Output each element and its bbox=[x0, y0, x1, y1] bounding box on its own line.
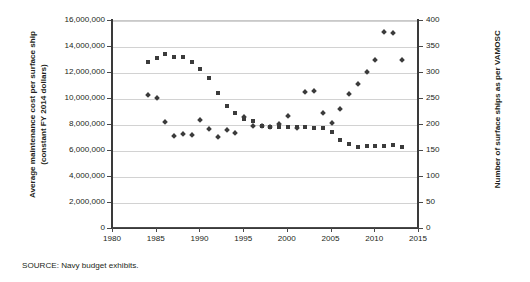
y-axis-left-tick-label: 2,000,000 bbox=[10, 197, 105, 206]
y-axis-right-tick-label: 400 bbox=[426, 15, 466, 24]
data-point bbox=[225, 104, 229, 108]
chart-figure: Average maintenance cost per surface shi… bbox=[0, 0, 530, 282]
data-point bbox=[303, 125, 307, 129]
x-axis-tick bbox=[156, 228, 157, 232]
gridline bbox=[113, 151, 417, 152]
x-axis-tick-label: 2010 bbox=[349, 234, 399, 243]
data-point bbox=[302, 89, 308, 95]
data-point bbox=[146, 60, 150, 64]
data-point bbox=[198, 67, 202, 71]
data-point bbox=[171, 133, 177, 139]
x-axis-tick-label: 2005 bbox=[306, 234, 356, 243]
data-point bbox=[356, 145, 360, 149]
y-axis-left-tick bbox=[107, 150, 111, 151]
x-axis-tick bbox=[287, 228, 288, 232]
x-axis-tick bbox=[374, 228, 375, 232]
gridline bbox=[113, 21, 417, 22]
y-axis-left-tick bbox=[107, 46, 111, 47]
y-axis-left-tick bbox=[107, 124, 111, 125]
y-axis-left-tick bbox=[107, 72, 111, 73]
data-point bbox=[233, 111, 237, 115]
data-point bbox=[180, 131, 186, 137]
y-axis-right-tick-label: 100 bbox=[426, 171, 466, 180]
y-axis-right-tick-label: 50 bbox=[426, 197, 466, 206]
data-point bbox=[232, 131, 238, 137]
source-note: SOURCE: Navy budget exhibits. bbox=[22, 261, 139, 270]
data-point bbox=[372, 57, 378, 63]
gridline bbox=[113, 177, 417, 178]
gridline bbox=[113, 203, 417, 204]
data-point bbox=[373, 144, 377, 148]
y-axis-left-tick bbox=[107, 202, 111, 203]
y-axis-right-title: Number of surface ships as per VAMOSC bbox=[493, 9, 504, 209]
data-point bbox=[224, 127, 230, 133]
data-point bbox=[277, 125, 281, 129]
data-point bbox=[330, 130, 334, 134]
y-axis-right-tick bbox=[419, 98, 423, 99]
y-axis-right-tick-label: 150 bbox=[426, 145, 466, 154]
data-point bbox=[312, 126, 316, 130]
y-axis-right-tick bbox=[419, 202, 423, 203]
data-point bbox=[390, 30, 396, 36]
x-axis-tick-label: 1995 bbox=[218, 234, 268, 243]
data-point bbox=[207, 76, 211, 80]
data-point bbox=[399, 57, 405, 63]
y-axis-left-tick-label: 12,000,000 bbox=[10, 67, 105, 76]
y-axis-right-tick-label: 250 bbox=[426, 93, 466, 102]
y-axis-left-tick bbox=[107, 20, 111, 21]
data-point bbox=[295, 125, 299, 129]
data-point bbox=[337, 106, 343, 112]
y-axis-right-tick-label: 350 bbox=[426, 41, 466, 50]
data-point bbox=[355, 81, 361, 87]
gridline bbox=[113, 73, 417, 74]
data-point bbox=[250, 123, 256, 129]
data-point bbox=[172, 55, 176, 59]
data-point bbox=[198, 118, 204, 124]
data-point bbox=[321, 126, 325, 130]
y-axis-left-tick-label: 14,000,000 bbox=[10, 41, 105, 50]
data-point bbox=[163, 52, 167, 56]
y-axis-left-tick bbox=[107, 176, 111, 177]
data-point bbox=[365, 144, 369, 148]
data-point bbox=[285, 113, 291, 119]
y-axis-right-tick-label: 300 bbox=[426, 67, 466, 76]
data-point bbox=[189, 132, 195, 138]
x-axis-tick-label: 1980 bbox=[87, 234, 137, 243]
data-point bbox=[286, 125, 290, 129]
data-point bbox=[216, 91, 220, 95]
y-axis-right-tick bbox=[419, 20, 423, 21]
data-point bbox=[381, 29, 387, 35]
data-point bbox=[400, 145, 404, 149]
y-axis-left-spine bbox=[111, 19, 113, 229]
x-axis-spine bbox=[111, 228, 418, 230]
y-axis-right-tick bbox=[419, 124, 423, 125]
y-axis-right-tick bbox=[419, 46, 423, 47]
data-point bbox=[268, 125, 272, 129]
y-axis-left-tick bbox=[107, 228, 111, 229]
y-axis-right-tick bbox=[419, 228, 423, 229]
y-axis-left-tick-label: 6,000,000 bbox=[10, 145, 105, 154]
y-axis-right-tick-label: 0 bbox=[426, 223, 466, 232]
data-point bbox=[206, 126, 212, 132]
data-point bbox=[260, 124, 264, 128]
y-axis-left-tick-label: 16,000,000 bbox=[10, 15, 105, 24]
data-point bbox=[190, 60, 194, 64]
data-point bbox=[346, 91, 352, 97]
data-point bbox=[215, 134, 221, 140]
data-point bbox=[242, 117, 246, 121]
x-axis-tick bbox=[243, 228, 244, 232]
x-axis-tick-label: 2000 bbox=[262, 234, 312, 243]
data-point bbox=[347, 142, 351, 146]
data-point bbox=[382, 144, 386, 148]
data-point bbox=[391, 143, 395, 147]
data-point bbox=[320, 110, 326, 116]
y-axis-right-tick bbox=[419, 176, 423, 177]
y-axis-right-tick bbox=[419, 72, 423, 73]
x-axis-tick-label: 1985 bbox=[131, 234, 181, 243]
data-point bbox=[155, 56, 159, 60]
y-axis-left-tick-label: 4,000,000 bbox=[10, 171, 105, 180]
y-axis-right-tick bbox=[419, 150, 423, 151]
x-axis-tick-label: 1990 bbox=[174, 234, 224, 243]
x-axis-tick bbox=[331, 228, 332, 232]
y-axis-right-tick-label: 200 bbox=[426, 119, 466, 128]
